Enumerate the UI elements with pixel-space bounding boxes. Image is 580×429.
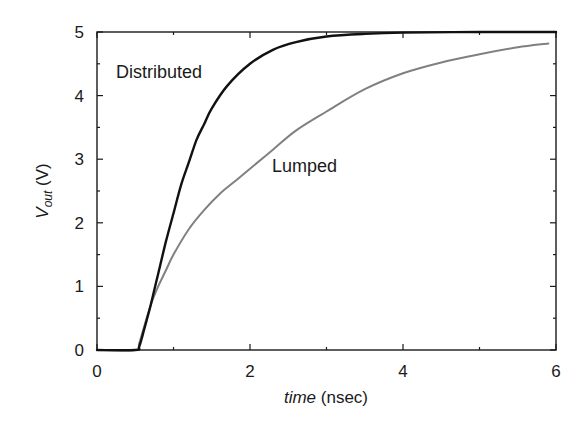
x-tick-label: 0: [92, 362, 101, 381]
y-tick-label: 0: [75, 341, 84, 360]
x-axis-label-unit: (nsec): [316, 388, 368, 407]
annotation-lumped: Lumped: [272, 156, 337, 176]
series-line-lumped: [97, 43, 548, 350]
y-axis-label: Vout (V): [33, 163, 55, 218]
y-tick-label: 5: [75, 23, 84, 42]
x-tick-label: 2: [245, 362, 254, 381]
y-tick-label: 3: [75, 150, 84, 169]
y-tick-label: 1: [75, 277, 84, 296]
x-tick-label: 6: [551, 362, 560, 381]
x-tick-label: 4: [398, 362, 407, 381]
x-axis-label-italic: time: [284, 388, 316, 407]
chart-canvas: 0246012345 Distributed Lumped time (nsec…: [0, 0, 580, 429]
y-axis-label-sub: out: [41, 190, 55, 207]
x-axis-label: time (nsec): [284, 388, 368, 407]
y-axis-label-unit: (V): [33, 163, 52, 190]
y-tick-label: 2: [75, 214, 84, 233]
y-tick-label: 4: [75, 87, 84, 106]
annotation-distributed: Distributed: [116, 62, 202, 82]
